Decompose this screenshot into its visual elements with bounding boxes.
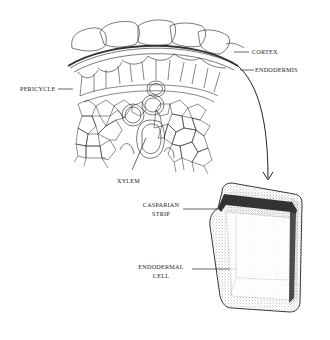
root-cross-section-illustration — [0, 0, 330, 340]
endodermis-cells — [70, 48, 238, 78]
diagram-canvas: CORTEX ENDODERMIS PERICYCLE XYLEM CASPAR… — [0, 0, 330, 340]
label-casparian-line2: STRIP — [136, 209, 186, 218]
label-endodermal-line1: ENDODERMAL — [133, 262, 189, 271]
label-casparian-strip: CASPARIAN STRIP — [136, 200, 186, 218]
label-endodermal-line2: CELL — [133, 271, 189, 280]
label-xylem: XYLEM — [117, 176, 140, 185]
pericycle-cells — [80, 60, 220, 102]
label-cortex: CORTEX — [252, 47, 278, 56]
label-casparian-line1: CASPARIAN — [136, 200, 186, 209]
xylem-vessels — [120, 81, 174, 158]
pointer-arrow-line — [238, 66, 268, 178]
label-endodermal-cell: ENDODERMAL CELL — [133, 262, 189, 280]
label-pericycle: PERICYCLE — [20, 84, 56, 93]
cortex-cells — [72, 20, 244, 54]
label-endodermis: ENDODERMIS — [255, 65, 298, 74]
casparian-strip-arc — [68, 46, 238, 66]
endodermal-cell-block — [210, 183, 302, 312]
